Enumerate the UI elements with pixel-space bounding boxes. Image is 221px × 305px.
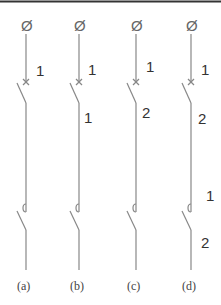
pole-number-label: 1 <box>146 58 154 75</box>
panel-b: Ø11(b) <box>70 17 96 293</box>
pole-number-label: 1 <box>88 61 96 78</box>
panel-caption: (b) <box>70 279 84 293</box>
panel-c: Ø12(c) <box>127 17 154 293</box>
switch-blade <box>70 83 79 103</box>
switch-blade <box>182 83 191 103</box>
terminal-phi-icon: Ø <box>21 17 33 34</box>
pole-number-label: 1 <box>201 61 209 78</box>
pole-number-label: 2 <box>201 234 209 251</box>
pole-number-label: 1 <box>84 109 92 126</box>
panel-caption: (a) <box>17 279 30 293</box>
switch-blade <box>127 211 136 230</box>
panel-a: Ø1(a) <box>17 17 44 293</box>
circuit-diagram: Ø1(a)Ø11(b)Ø12(c)Ø1212(d) <box>0 0 221 305</box>
terminal-phi-icon: Ø <box>186 17 198 34</box>
pole-number-label: 1 <box>36 62 44 79</box>
switch-blade <box>182 211 191 230</box>
pole-number-label: 2 <box>198 110 206 127</box>
switch-blade <box>17 211 26 230</box>
switch-blade <box>127 83 136 103</box>
terminal-phi-icon: Ø <box>131 17 143 34</box>
panel-caption: (d) <box>182 279 196 293</box>
switch-blade <box>17 83 26 103</box>
panel-d: Ø1212(d) <box>182 17 214 293</box>
pole-number-label: 2 <box>142 104 150 121</box>
panel-caption: (c) <box>127 279 140 293</box>
switch-blade <box>70 211 79 230</box>
terminal-phi-icon: Ø <box>74 17 86 34</box>
pole-number-label: 1 <box>206 187 214 204</box>
